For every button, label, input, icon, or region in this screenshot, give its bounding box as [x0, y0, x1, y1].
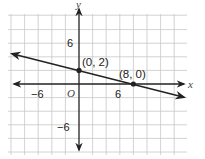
point-0-2	[76, 68, 81, 73]
x-tick-6: 6	[115, 88, 121, 100]
coordinate-plane: x y O −6 6 6 −6 (0, 2) (8, 0)	[0, 0, 205, 159]
y-tick-neg6: −6	[57, 121, 70, 133]
y-tick-6: 6	[67, 37, 73, 49]
origin-label: O	[67, 87, 75, 99]
point-8-0	[131, 81, 136, 86]
y-axis-label: y	[75, 0, 81, 10]
point-label-0-2: (0, 2)	[82, 56, 109, 68]
point-label-8-0: (8, 0)	[119, 68, 146, 80]
x-tick-neg6: −6	[31, 88, 44, 100]
x-axis-label: x	[187, 78, 193, 90]
